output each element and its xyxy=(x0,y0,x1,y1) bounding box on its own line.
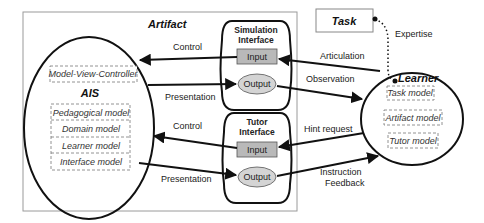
ais-models-stack: Pedagogical model Domain model Learner m… xyxy=(51,104,130,170)
tutor-input-label: Input xyxy=(247,145,268,155)
mvc-box: Model-View-Controller xyxy=(49,66,139,82)
ais-model-pedagogical: Pedagogical model xyxy=(53,108,131,118)
articulation-label: Articulation xyxy=(320,51,365,61)
ais-model-interface: Interface model xyxy=(60,157,123,167)
tutor-interface-title-1: Tutor xyxy=(246,117,268,127)
tutor-output-label: Output xyxy=(243,172,271,182)
observation-label: Observation xyxy=(306,74,355,84)
simulation-interface-title-1: Simulation xyxy=(234,25,277,35)
presentation-label-top: Presentation xyxy=(165,92,216,102)
presentation-label-bottom: Presentation xyxy=(161,174,212,184)
learner-model-task: Task model xyxy=(387,88,434,98)
presentation-arrow-top xyxy=(148,84,236,85)
learner-task-model-box: Task model xyxy=(387,86,434,100)
simulation-interface-title-2: Interface xyxy=(238,35,274,45)
learner-title: Learner xyxy=(398,72,439,84)
instruction-label: Instruction xyxy=(320,167,362,177)
control-arrow-bottom xyxy=(154,136,237,148)
ais-title: AIS xyxy=(80,87,100,99)
simulation-input-label: Input xyxy=(247,52,268,62)
feedback-label: Feedback xyxy=(325,178,365,188)
control-arrow-top xyxy=(140,57,237,60)
diagram-canvas: Artifact Model-View-Controller AIS Pedag… xyxy=(0,0,484,223)
tutor-interface-title-2: Interface xyxy=(239,127,275,137)
expertise-label: Expertise xyxy=(395,29,433,39)
learner-artifact-model-box: Artifact model xyxy=(384,110,442,125)
learner-model-artifact: Artifact model xyxy=(384,113,441,123)
learner-model-tutor: Tutor model xyxy=(389,136,437,146)
learner-tutor-model-box: Tutor model xyxy=(388,133,438,148)
hint-request-label: Hint request xyxy=(304,124,353,134)
simulation-output-label: Output xyxy=(243,79,271,89)
control-label-bottom: Control xyxy=(173,121,202,131)
learner-connector-dot xyxy=(393,79,398,84)
artifact-title: Artifact xyxy=(147,18,188,30)
ais-model-learner: Learner model xyxy=(62,141,121,151)
ais-model-domain: Domain model xyxy=(62,124,121,134)
control-label-top: Control xyxy=(173,42,202,52)
mvc-label: Model-View-Controller xyxy=(49,69,139,79)
hint-request-arrow xyxy=(279,133,364,147)
task-label: Task xyxy=(332,15,358,27)
